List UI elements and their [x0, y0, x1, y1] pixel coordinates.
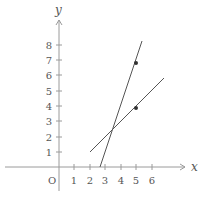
x-tick-label: 1: [71, 175, 77, 186]
x-tick-label: 3: [102, 175, 108, 186]
x-tick-label: 4: [118, 175, 124, 186]
y-tick-label: 7: [46, 55, 52, 66]
y-tick-label: 1: [46, 147, 52, 158]
y-tick-label: 6: [46, 70, 52, 81]
y-tick-label: 3: [46, 116, 52, 127]
line-2: [90, 78, 164, 152]
origin-label: O: [48, 175, 56, 186]
line-1: [100, 41, 142, 167]
y-axis-label: y: [54, 3, 62, 17]
y-tick-label: 2: [46, 132, 52, 143]
point-5-7: [134, 61, 138, 65]
point-5-4: [134, 106, 138, 110]
x-tick-label: 2: [87, 175, 93, 186]
y-tick-label: 5: [46, 86, 52, 97]
y-tick-label: 8: [46, 40, 52, 51]
x-tick-label: 6: [149, 175, 155, 186]
coordinate-plane: 1 2 3 4 5 6 1 2 3 4 5 6 7 8 O x y: [0, 0, 203, 201]
x-tick-label: 5: [133, 175, 139, 186]
y-tick-label: 4: [46, 101, 52, 112]
x-axis-label: x: [191, 160, 198, 174]
